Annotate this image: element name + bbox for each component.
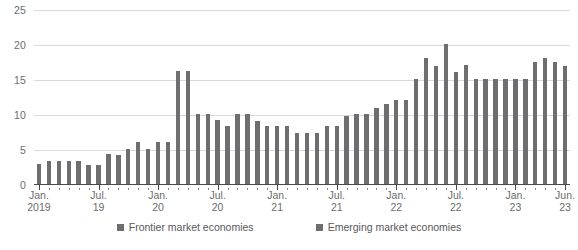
- x-axis-tick-label: Jan.20: [148, 189, 168, 213]
- bar: [513, 79, 517, 185]
- bar: [503, 79, 507, 185]
- bar: [265, 126, 269, 185]
- x-axis-tick-label: Jan.23: [505, 189, 525, 213]
- bar: [67, 161, 71, 186]
- chart-legend: Frontier market economies Emerging marke…: [0, 222, 578, 233]
- bar: [235, 114, 239, 185]
- x-axis-tick-label: Jan.2019: [27, 189, 50, 213]
- bar: [543, 58, 547, 185]
- legend-item-emerging-market-economies: Emerging market economies: [316, 222, 462, 233]
- bar: [533, 62, 537, 185]
- legend-swatch-icon: [316, 224, 323, 231]
- y-axis-tick-label: 20: [0, 40, 26, 50]
- bar: [325, 126, 329, 185]
- bar: [47, 161, 51, 186]
- bar: [86, 165, 90, 185]
- bar: [156, 142, 160, 185]
- x-axis-tick-label: Jul.22: [448, 189, 464, 213]
- bar: [116, 155, 120, 185]
- bar: [106, 154, 110, 185]
- bar: [146, 149, 150, 185]
- bar: [245, 114, 249, 185]
- chart-figure: 0510152025 Jan.2019Jul.19Jan.20Jul.20Jan…: [0, 0, 578, 250]
- bar: [215, 120, 219, 185]
- y-axis-tick-label: 0: [0, 180, 26, 190]
- bar: [176, 71, 180, 185]
- x-axis-tick-label: Jul.20: [209, 189, 225, 213]
- bar: [136, 142, 140, 185]
- x-axis-tick-label: Jul.19: [90, 189, 106, 213]
- legend-item-frontier-market-economies: Frontier market economies: [117, 222, 254, 233]
- bar: [344, 116, 348, 185]
- y-axis-tick-label: 15: [0, 75, 26, 85]
- plot-area: [34, 10, 570, 185]
- x-axis-tick-label: Jan.21: [267, 189, 287, 213]
- bar: [315, 133, 319, 186]
- bar: [444, 44, 448, 185]
- legend-swatch-icon: [117, 224, 124, 231]
- bar: [483, 79, 487, 185]
- bar: [424, 58, 428, 185]
- y-axis-tick-label: 5: [0, 145, 26, 155]
- legend-label: Frontier market economies: [129, 222, 254, 233]
- bar: [37, 164, 41, 185]
- bar: [76, 161, 80, 186]
- bar: [523, 79, 527, 185]
- bar: [474, 79, 478, 185]
- y-axis-tick-label: 10: [0, 110, 26, 120]
- bar: [166, 142, 170, 185]
- bar: [553, 62, 557, 185]
- bar: [374, 108, 378, 185]
- bar: [335, 126, 339, 185]
- bar: [57, 161, 61, 186]
- bar: [563, 66, 567, 185]
- x-axis-tick-label: Jun.23: [555, 189, 575, 213]
- bar: [404, 100, 408, 185]
- bar: [354, 114, 358, 185]
- bar: [414, 79, 418, 185]
- y-axis-tick-label: 25: [0, 5, 26, 15]
- bar: [493, 79, 497, 185]
- x-axis-tick-label: Jan.22: [386, 189, 406, 213]
- bar: [206, 114, 210, 185]
- bar: [384, 104, 388, 185]
- bar: [255, 121, 259, 185]
- bar: [186, 71, 190, 185]
- bar: [295, 133, 299, 186]
- bar: [196, 114, 200, 185]
- bar: [96, 165, 100, 185]
- x-axis-tick-label: Jul.21: [329, 189, 345, 213]
- bar: [285, 126, 289, 185]
- bar: [434, 66, 438, 185]
- bar-series: [34, 10, 570, 185]
- legend-label: Emerging market economies: [328, 222, 462, 233]
- bar: [364, 114, 368, 185]
- bar: [394, 100, 398, 185]
- bar: [305, 133, 309, 186]
- bar: [225, 126, 229, 185]
- bar: [454, 72, 458, 185]
- bar: [126, 149, 130, 185]
- bar: [275, 126, 279, 185]
- x-axis-labels: Jan.2019Jul.19Jan.20Jul.20Jan.21Jul.21Ja…: [34, 189, 570, 219]
- bar: [464, 65, 468, 185]
